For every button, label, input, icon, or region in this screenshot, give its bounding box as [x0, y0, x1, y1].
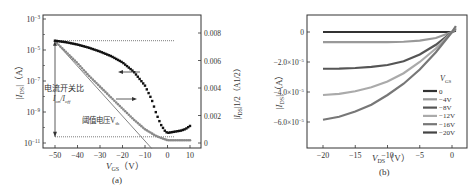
- tick-label: −30: [94, 151, 107, 160]
- tick-label: 10−5: [26, 45, 40, 55]
- panel-b-series: [323, 26, 456, 120]
- data-point: [189, 139, 192, 142]
- tick-label: 0: [300, 28, 304, 37]
- data-point: [189, 125, 191, 127]
- annotation-on-off-ratio: 电流开关比: [44, 83, 84, 93]
- data-point: [84, 71, 87, 74]
- data-point: [144, 84, 146, 86]
- tick-label: −10: [139, 151, 152, 160]
- legend-label: 0: [439, 88, 443, 96]
- legend-label: −16V: [439, 121, 455, 129]
- data-point: [156, 116, 158, 118]
- figure: −50−40−30−20−10010 10−310−510−710−910−11…: [0, 0, 473, 191]
- tick-label: −40: [71, 151, 84, 160]
- tick-label: 10−11: [24, 138, 40, 148]
- data-point: [147, 92, 149, 94]
- data-point: [149, 96, 151, 98]
- tick-label: 10−3: [26, 14, 40, 24]
- tick-label: 0.008: [204, 29, 221, 38]
- data-point: [137, 76, 139, 78]
- data-point: [79, 65, 82, 68]
- tick-label: 10−7: [26, 76, 40, 86]
- panel-a-y-right-label: |IDS|1/2（A1/2）: [233, 64, 243, 120]
- panel-b-x-label: VDS（V）: [372, 153, 410, 164]
- legend-label: −4V: [439, 96, 452, 104]
- tick-label: 0.004: [204, 84, 221, 93]
- legend-label: −12V: [439, 112, 455, 120]
- tick-label: 10: [186, 151, 194, 160]
- panel-a-x-label: VGS（V）: [106, 161, 144, 172]
- data-point: [138, 78, 140, 80]
- data-point: [155, 111, 157, 113]
- legend-label: −20V: [439, 129, 455, 137]
- tick-label: −15: [349, 151, 362, 160]
- tick-label: −50: [49, 151, 62, 160]
- data-point: [86, 73, 89, 76]
- data-point: [83, 69, 86, 72]
- tick-label: −2.0×10−5: [273, 58, 304, 67]
- legend-title: VGS: [440, 74, 452, 84]
- data-point: [140, 80, 142, 82]
- panel-a-axes-frame: [43, 15, 201, 148]
- data-point: [81, 67, 84, 70]
- tick-label: 0: [204, 139, 208, 148]
- tick-label: −5: [415, 151, 424, 160]
- tick-label: 10−9: [26, 107, 40, 117]
- data-point: [77, 63, 80, 66]
- tick-label: 0.006: [204, 57, 221, 66]
- panel-b-caption: (b): [379, 167, 390, 177]
- annotation-threshold-voltage: 阈值电压Vth: [82, 115, 120, 126]
- data-point: [160, 124, 162, 126]
- panel-a: −50−40−30−20−10010 10−310−510−710−910−11…: [14, 14, 243, 185]
- series-line-0: [323, 31, 456, 32]
- data-point: [158, 120, 160, 122]
- tick-label: 0: [166, 151, 170, 160]
- panel-a-y-left-label: |IDS|（A）: [14, 61, 25, 100]
- data-point: [162, 127, 164, 129]
- panel-a-caption: (a): [112, 175, 122, 185]
- tick-label: −20: [317, 151, 330, 160]
- data-point: [153, 105, 155, 107]
- data-point: [146, 88, 148, 90]
- panel-b-y-label: |IDS|（A）: [274, 71, 285, 110]
- tick-label: −6.0×10−5: [273, 118, 304, 127]
- data-point: [75, 61, 78, 64]
- tick-label: 0.002: [204, 112, 221, 121]
- tick-label: −20: [116, 151, 129, 160]
- panel-a-x-ticks: −50−40−30−20−10010: [49, 145, 194, 160]
- arrow-right-icon: [116, 97, 137, 101]
- data-point: [142, 82, 144, 84]
- panel-b: −20−15−10−50 0−2.0×10−5−4.0×10−5−6.0×10−…: [273, 15, 467, 177]
- panel-b-legend: VGS 0−4V−8V−12V−16V−20V: [423, 74, 455, 137]
- series-line-4: [323, 26, 456, 120]
- legend-label: −8V: [439, 104, 452, 112]
- tick-label: 0: [450, 151, 454, 160]
- data-point: [135, 73, 137, 75]
- data-point: [151, 100, 153, 102]
- annotation-ion-ioff: Ion/Ioff: [52, 94, 71, 104]
